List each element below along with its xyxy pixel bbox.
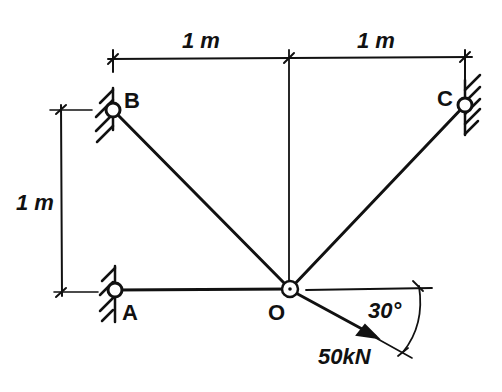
dimension-label-left: 1 m xyxy=(16,190,54,215)
node-label-A: A xyxy=(122,300,138,325)
node-label-B: B xyxy=(124,88,140,113)
node-label-O: O xyxy=(268,300,285,325)
angle-arc xyxy=(403,286,420,352)
member-AO xyxy=(115,289,290,290)
angle-label: 30° xyxy=(368,298,401,323)
member-BO xyxy=(113,110,290,289)
joint-A xyxy=(108,283,122,297)
member-CO xyxy=(290,105,465,289)
joint-C xyxy=(458,98,472,112)
load-label: 50kN xyxy=(318,344,372,369)
reference-line xyxy=(306,288,432,290)
dimension-label-top-left: 1 m xyxy=(182,28,220,53)
truss-diagram: 1 m 1 m 1 m B C A O 30° 50kN xyxy=(0,0,502,392)
dimension-line-left xyxy=(61,105,62,296)
dimension-label-top-right: 1 m xyxy=(357,28,395,53)
node-label-C: C xyxy=(437,86,453,111)
joint-B xyxy=(106,103,120,117)
